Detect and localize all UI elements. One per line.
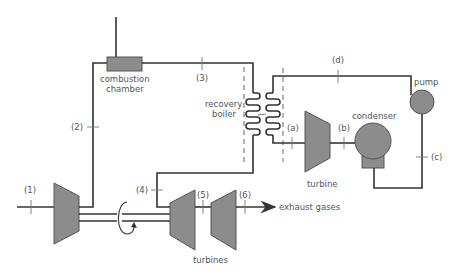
feedwater-line-top	[273, 76, 411, 95]
label-combustion: combustion	[100, 74, 150, 84]
gas-turbine-2-icon	[211, 190, 236, 250]
compressed-air-line	[79, 63, 107, 207]
rotation-arrow-icon	[131, 222, 137, 228]
label-point-d: (d)	[332, 55, 344, 65]
label-point-4: (4)	[136, 185, 148, 195]
label-recovery: recovery	[205, 99, 242, 109]
label-point-b: (b)	[338, 123, 350, 133]
rotation-icon	[118, 202, 134, 234]
label-point-1: (1)	[24, 185, 36, 195]
steam-to-turbine-line	[273, 135, 305, 143]
pump-icon	[410, 90, 434, 114]
gas-turbine-1-icon	[170, 190, 195, 250]
label-pump: pump	[414, 77, 438, 87]
condenser-icon	[355, 123, 391, 159]
label-point-2: (2)	[71, 122, 83, 132]
label-condenser: condenser	[352, 111, 397, 121]
combined-cycle-diagram: (1) (2) (3) (4) (5) (6) (a) (b) (c) (d) …	[0, 0, 451, 279]
label-boiler: boiler	[212, 109, 237, 119]
label-point-6: (6)	[239, 190, 251, 200]
label-chamber: chamber	[106, 84, 144, 94]
compressor-icon	[54, 183, 79, 244]
label-point-a: (a)	[287, 123, 299, 133]
steam-side-coil-icon	[266, 93, 280, 135]
label-exhaust-gases: exhaust gases	[279, 202, 341, 212]
gas-side-coil-icon	[246, 93, 260, 135]
label-point-3: (3)	[196, 73, 208, 83]
heat-transfer-arrow-icon	[258, 114, 266, 115]
label-point-c: (c)	[431, 152, 442, 162]
label-steam-turbine: turbine	[307, 179, 338, 189]
combustion-chamber-icon	[107, 57, 142, 71]
steam-turbine-icon	[305, 111, 330, 172]
label-turbines: turbines	[193, 255, 229, 265]
label-point-5: (5)	[197, 190, 209, 200]
